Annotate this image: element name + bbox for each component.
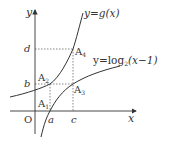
tick-c: c xyxy=(71,114,77,125)
curve-log xyxy=(41,66,120,137)
y-axis-label: y xyxy=(25,6,33,19)
point-label-A1: A1 xyxy=(37,98,49,110)
curve-g-label: y=g(x) xyxy=(83,7,120,19)
function-graph-diagram: y x O d b a c A4 A3 A2 A1 y=g(x) y=log2(… xyxy=(0,0,176,144)
origin-label: O xyxy=(24,114,32,125)
x-axis-label: x xyxy=(128,112,135,125)
tick-b: b xyxy=(24,78,30,89)
point-label-A4: A4 xyxy=(74,46,86,58)
point-label-A2: A2 xyxy=(37,72,49,84)
tick-d: d xyxy=(24,43,30,54)
tick-a: a xyxy=(48,114,54,125)
point-label-A3: A3 xyxy=(73,84,85,96)
curve-log-label: y=log2(x−1) xyxy=(92,54,158,67)
